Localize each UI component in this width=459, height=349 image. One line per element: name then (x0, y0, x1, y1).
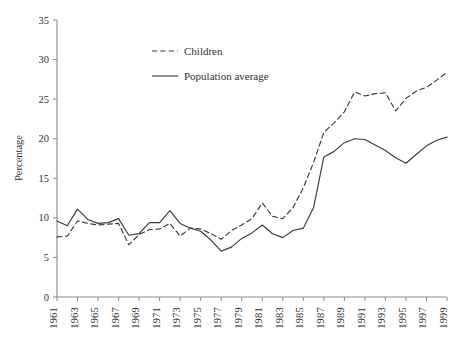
x-tick-label: 1971 (151, 307, 162, 329)
legend-label-population-average: Population average (184, 70, 269, 82)
x-tick-label: 1997 (417, 307, 428, 329)
y-tick-label: 20 (39, 133, 50, 144)
x-tick-label: 1995 (397, 307, 408, 329)
x-tick-label: 1975 (192, 307, 203, 329)
x-tick-label: 1985 (294, 307, 305, 329)
y-axis-title: Percentage (13, 135, 24, 181)
x-tick-label: 1991 (356, 307, 367, 329)
legend-label-children: Children (184, 45, 223, 57)
x-tick-label: 1973 (171, 307, 182, 329)
y-tick-label: 35 (39, 15, 50, 26)
y-tick-label: 5 (44, 252, 49, 263)
x-tick-label: 1979 (233, 307, 244, 329)
x-tick-label: 1965 (89, 307, 100, 329)
x-tick-label: 1967 (110, 307, 121, 329)
y-tick-label: 0 (44, 292, 49, 303)
x-tick-label: 1969 (130, 307, 141, 329)
y-tick-label: 15 (39, 173, 50, 184)
y-tick-label: 10 (39, 212, 50, 223)
x-tick-label: 1983 (274, 307, 285, 329)
y-tick-label: 30 (39, 54, 50, 65)
x-tick-label: 1989 (335, 307, 346, 329)
y-tick-label: 25 (39, 94, 50, 105)
x-tick-label: 1977 (212, 307, 223, 329)
x-tick-label: 1993 (376, 307, 387, 329)
line-chart: 05101520253035 1961196319651967196919711… (0, 0, 459, 349)
x-tick-label: 1987 (315, 307, 326, 329)
x-tick-label: 1981 (253, 307, 264, 329)
chart-figure: 05101520253035 1961196319651967196919711… (0, 0, 459, 349)
x-tick-label: 1963 (69, 307, 80, 329)
x-tick-label: 1999 (438, 307, 449, 329)
x-tick-label: 1961 (48, 307, 59, 329)
